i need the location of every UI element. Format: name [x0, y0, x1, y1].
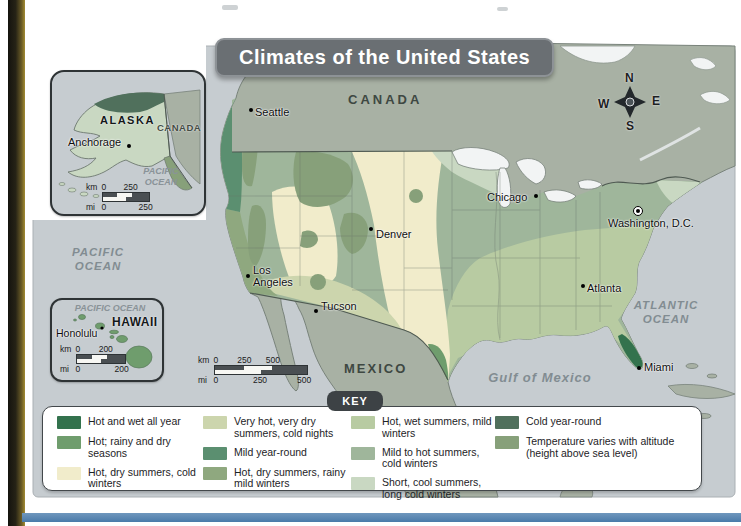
- hawaii-scale-bar: km 0 200 mi 0 200: [60, 344, 130, 374]
- key-swatch: [351, 477, 375, 490]
- scale-unit-mi: mi: [60, 364, 76, 374]
- key-swatch: [57, 467, 81, 480]
- city-dot-seattle: [249, 108, 253, 112]
- key-swatch: [351, 416, 375, 429]
- key-item: Hot, wet summers, mild winters: [351, 416, 493, 440]
- textbook-page: Climates of the United States CANADA MEX…: [0, 0, 741, 526]
- ocean-label-atlantic: ATLANTIC OCEAN: [620, 298, 712, 327]
- key-column-2: Very hot, very dry summers, cold nights …: [203, 416, 349, 497]
- city-label-denver: Denver: [376, 228, 411, 240]
- hawaii-region-label: HAWAII: [112, 315, 158, 329]
- scale-tick: 0: [76, 364, 81, 374]
- key-item: Mild to hot summers, cold winters: [351, 447, 493, 471]
- zone-altitude-arizona: [310, 274, 326, 290]
- city-label-washington-dc: Washington, D.C.: [608, 217, 694, 229]
- key-swatch: [351, 447, 375, 460]
- compass-west-label: W: [598, 97, 609, 111]
- alaska-inset: ALASKA CANADA Anchorage PACIFIC OCEAN km…: [50, 70, 206, 216]
- key-swatch: [495, 416, 519, 429]
- capital-mark-washington-dc: [633, 206, 643, 216]
- country-label-mexico: MEXICO: [344, 361, 407, 376]
- key-item: Mild year-round: [203, 447, 349, 460]
- key-item-label: Hot, wet summers, mild winters: [382, 416, 493, 440]
- city-label-chicago: Chicago: [487, 191, 527, 203]
- key-item-label: Hot, dry summers, cold winters: [88, 467, 207, 491]
- ocean-label-pacific: PACIFIC OCEAN: [52, 245, 144, 274]
- key-column-3: Hot, wet summers, mild winters Mild to h…: [351, 416, 493, 508]
- scale-tick: 500: [266, 355, 280, 365]
- city-dot-honolulu: [100, 326, 103, 329]
- city-label-anchorage: Anchorage: [68, 136, 121, 148]
- key-item: Cold year-round: [495, 416, 691, 429]
- scale-tick: 250: [237, 355, 251, 365]
- key-item-label: Mild year-round: [234, 447, 307, 460]
- key-column-1: Hot and wet all year Hot; rainy and dry …: [57, 416, 207, 497]
- scale-tick: 0: [213, 375, 218, 385]
- key-item: Hot, dry summers, cold winters: [57, 467, 207, 491]
- compass-north-label: N: [625, 71, 634, 85]
- key-item-label: Hot; rainy and dry seasons: [88, 436, 207, 460]
- city-label-seattle: Seattle: [255, 106, 289, 118]
- scale-tick: 200: [115, 364, 129, 374]
- city-dot-tucson: [314, 309, 318, 313]
- city-dot-atlanta: [581, 284, 585, 288]
- scale-tick: 0: [101, 182, 106, 192]
- key-item: Short, cool summers, long cold winters: [351, 477, 493, 501]
- key-swatch: [495, 436, 519, 449]
- key-item-label: Hot, dry summers, rainy mild winters: [234, 467, 349, 491]
- city-label-miami: Miami: [644, 361, 673, 373]
- scale-tick: 250: [253, 375, 267, 385]
- compass-south-label: S: [626, 119, 634, 133]
- main-scale-bar: km 0 250 500 mi 0 250 500: [198, 355, 310, 385]
- key-item-label: Very hot, very dry summers, cold nights: [234, 416, 349, 440]
- key-item: Hot; rainy and dry seasons: [57, 436, 207, 460]
- scale-unit-mi: mi: [86, 202, 102, 212]
- scale-tick: 200: [99, 344, 113, 354]
- key-item-label: Mild to hot summers, cold winters: [382, 447, 493, 471]
- key-item-label: Temperature varies with altitude (height…: [526, 436, 691, 460]
- scale-tick: 0: [213, 355, 218, 365]
- scale-tick: 0: [76, 344, 81, 354]
- scale-tick: 250: [123, 182, 137, 192]
- city-dot-chicago: [534, 194, 538, 198]
- key-swatch: [203, 467, 227, 480]
- scale-tick: 250: [139, 202, 153, 212]
- scale-tick: 0: [101, 202, 106, 212]
- city-dot-anchorage: [127, 144, 131, 148]
- key-item: Hot and wet all year: [57, 416, 207, 429]
- key-item: Temperature varies with altitude (height…: [495, 436, 691, 460]
- zone-altitude-black-hills: [409, 189, 423, 203]
- key-item: Very hot, very dry summers, cold nights: [203, 416, 349, 440]
- country-label-canada: CANADA: [348, 92, 422, 107]
- map-key: Hot and wet all year Hot; rainy and dry …: [42, 406, 702, 491]
- city-dot-denver: [369, 227, 373, 231]
- page-bottom-accent: [22, 513, 741, 522]
- key-swatch: [203, 447, 227, 460]
- key-item-label: Cold year-round: [526, 416, 601, 429]
- scale-unit-km: km: [86, 182, 102, 192]
- alaska-canada-label: CANADA: [157, 122, 201, 133]
- city-dot-miami: [637, 366, 641, 370]
- key-item-label: Short, cool summers, long cold winters: [382, 477, 493, 501]
- city-label-honolulu: Honolulu: [56, 328, 97, 340]
- key-column-4: Cold year-round Temperature varies with …: [495, 416, 691, 467]
- alaska-region-label: ALASKA: [100, 114, 155, 126]
- scale-unit-mi: mi: [198, 375, 214, 385]
- city-dot-los-angeles: [246, 274, 250, 278]
- city-label-los-angeles: Los Angeles: [253, 264, 303, 288]
- city-label-atlanta: Atlanta: [587, 282, 621, 294]
- hawaii-inset: PACIFIC OCEAN HAWAII Honolulu km 0 200 m…: [50, 298, 164, 382]
- key-swatch: [203, 416, 227, 429]
- compass-east-label: E: [652, 94, 660, 108]
- scale-tick: 500: [297, 375, 311, 385]
- alaska-scale-bar: km 0 250 mi 0 250: [86, 182, 154, 212]
- key-swatch: [57, 436, 81, 449]
- map-title: Climates of the United States: [215, 38, 554, 77]
- city-label-tucson: Tucson: [321, 300, 357, 312]
- scale-unit-km: km: [60, 344, 76, 354]
- key-item: Hot, dry summers, rainy mild winters: [203, 467, 349, 491]
- key-item-label: Hot and wet all year: [88, 416, 181, 429]
- scale-unit-km: km: [198, 355, 214, 365]
- ocean-label-gulf-of-mexico: Gulf of Mexico: [470, 370, 610, 386]
- key-swatch: [57, 416, 81, 429]
